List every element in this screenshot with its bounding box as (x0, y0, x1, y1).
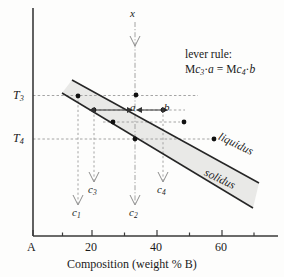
x-origin-label: A (27, 240, 36, 255)
callout-c3: c3 (88, 183, 97, 197)
y-tick-T4: T4 (13, 131, 24, 146)
lever-eq: = (214, 63, 227, 75)
y-tick-T4-sub: 4 (20, 137, 24, 146)
point-liquidus-extra-1 (182, 120, 187, 125)
x-tick-label-20: 20 (85, 240, 97, 255)
callout-c2: c2 (129, 206, 138, 220)
lever-rule-title: lever rule: (185, 48, 232, 60)
lever-m1: M (185, 63, 195, 75)
figure-canvas: x lever rule: Mc3·a=Mc4·b T3 T4 a b liqu… (0, 0, 284, 277)
callout-c3-sub: 3 (93, 188, 97, 197)
point-c1-liquidus (76, 94, 81, 99)
lever-rule-formula: Mc3·a=Mc4·b (185, 63, 255, 77)
overall-composition-label: x (130, 7, 135, 19)
callout-c4-sub: 4 (162, 188, 166, 197)
x-tick-label-40: 40 (150, 240, 162, 255)
y-tick-T3-sub: 3 (20, 94, 24, 103)
y-tick-T3-main: T (13, 88, 20, 102)
lever-b: b (249, 63, 255, 75)
x-axis-label: Composition (weight % B) (67, 257, 197, 272)
callout-c2-sub: 2 (134, 211, 138, 220)
point-c2-solidus (133, 137, 138, 142)
point-x-liquidus (134, 93, 139, 98)
segment-b-label: b (164, 101, 170, 113)
callout-c4: c4 (157, 183, 166, 197)
y-tick-T3: T3 (13, 88, 24, 103)
point-solidus-extra-1 (111, 120, 116, 125)
segment-a-label: a (130, 101, 136, 113)
callout-c1: c1 (72, 206, 81, 220)
x-tick-label-60: 60 (215, 240, 227, 255)
callout-c1-sub: 1 (77, 211, 81, 220)
lever-a: a (208, 63, 214, 75)
x-axis-ticks (33, 230, 254, 236)
y-tick-T4-main: T (13, 131, 20, 145)
lever-m2: M (226, 63, 236, 75)
